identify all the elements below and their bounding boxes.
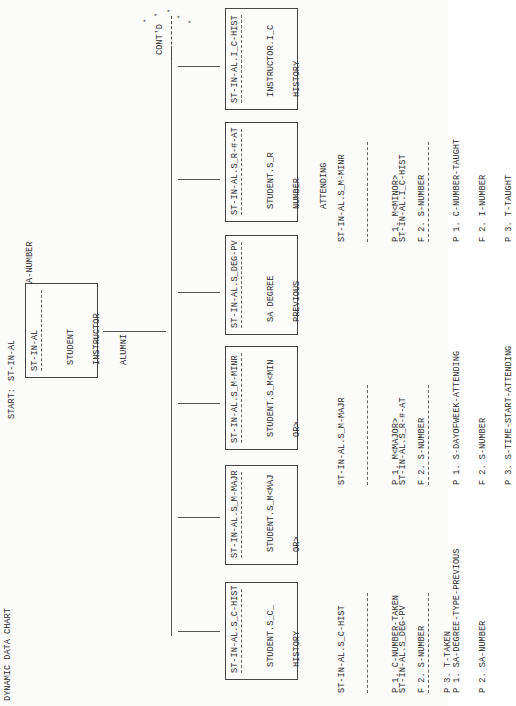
root-entity-subtypes: STUDENT INSTRUCTOR ALUMNI xyxy=(50,313,146,365)
entity-box-line: INSTRUCTOR.I_C xyxy=(267,25,276,97)
branch-stub-deg-pv xyxy=(178,292,220,293)
entity-box-line: OR> xyxy=(293,360,302,437)
entity-box-s-m-majr: ST-IN-AL.S_M-MAJR STUDENT.S_M<MAJ OR> xyxy=(225,465,298,565)
key-list-divider xyxy=(428,385,429,485)
entity-box-divider xyxy=(241,129,242,215)
entity-box-title: ST-IN-AL.S_M-MAJR xyxy=(231,470,240,558)
continuation-star-icon: * xyxy=(142,19,151,23)
key-list-item: F 2. I-NUMBER xyxy=(479,142,488,242)
main-trunk-line xyxy=(171,46,172,636)
key-list-item: P 3. S-TIME-START-ATTENDING xyxy=(505,385,514,485)
continuation-star-icon: * xyxy=(187,20,196,24)
root-connector-line xyxy=(103,331,166,332)
entity-box-description: SA DEGREE PREVIOUS xyxy=(250,276,320,322)
entity-box-line: NUMBER xyxy=(293,152,302,209)
subtype-student: STUDENT xyxy=(67,313,76,365)
continuation-star-icon: * xyxy=(153,13,162,17)
entity-box-s-r-num-at: ST-IN-AL.S_R-#-AT STUDENT.S_R NUMBER ATT… xyxy=(225,122,298,222)
entity-box-line: PREVIOUS xyxy=(293,276,302,322)
continuation-dashed-line xyxy=(171,16,172,60)
subtype-alumni: ALUMNI xyxy=(120,313,129,365)
branch-stub-i-c-hist xyxy=(178,66,220,67)
subtype-instructor: INSTRUCTOR xyxy=(93,313,102,365)
entity-box-divider xyxy=(241,353,242,443)
entity-box-line: STUDENT.S_M<MIN xyxy=(267,360,276,437)
key-list-s-deg-pv: ST-IN-AL.S_DEG-PV P 1. SA-DEGREE-TYPE-PR… xyxy=(382,593,505,693)
key-list-divider xyxy=(367,142,368,242)
branch-stub-r-num-at xyxy=(178,179,220,180)
key-list-item: P 3. T-TAUGHT xyxy=(505,142,514,242)
entity-box-line: STUDENT.S_C_ xyxy=(267,605,276,667)
key-list-title: ST-IN-AL.S_R-#-AT xyxy=(399,385,409,485)
entity-box-description: STUDENT.S_M<MIN OR> xyxy=(250,360,320,437)
continuation-star-icon: * xyxy=(166,9,175,13)
entity-box-title: ST-IN-AL.I_C-HIST xyxy=(231,15,240,103)
continuation-star-icon: * xyxy=(176,15,185,19)
key-list-title: ST-IN-AL.S_C-HIST xyxy=(338,593,348,693)
key-list-title: ST-IN-AL.S_M-MAJR xyxy=(338,385,348,485)
branch-stub-c-hist xyxy=(178,631,220,632)
entity-box-divider xyxy=(241,242,242,328)
entity-box-line: STUDENT.S_R xyxy=(267,152,276,209)
key-list-i-c-hist: ST-IN-AL.I_C-HIST P 1. C-NUMBER-TAUGHT F… xyxy=(382,142,516,242)
entity-box-description: INSTRUCTOR.I_C HISTORY xyxy=(250,25,320,97)
key-list-title: ST-IN-AL.S_DEG-PV xyxy=(399,593,409,693)
key-list-item: P 1. S-DAYOFWEEK-ATTENDING xyxy=(453,385,462,485)
entity-box-line: OR> xyxy=(293,475,302,552)
entity-box-title: ST-IN-AL.S_R-#-AT xyxy=(231,127,240,215)
entity-box-description: STUDENT.S_C_ HISTORY xyxy=(250,605,320,667)
entity-box-i-c-hist: ST-IN-AL.I_C-HIST INSTRUCTOR.I_C HISTORY xyxy=(225,8,298,110)
key-list-divider xyxy=(367,385,368,485)
key-list-item: F 2. S-NUMBER xyxy=(479,385,488,485)
root-entity-divider xyxy=(41,290,42,371)
key-list-item: P 2. SA-NUMBER xyxy=(479,593,488,693)
continuation-label: CONT'D xyxy=(156,24,165,55)
branch-stub-m-majr xyxy=(178,517,220,518)
key-list-title: ST-IN-AL.S_M-MINR xyxy=(338,142,348,242)
entity-box-divider xyxy=(241,15,242,103)
root-entity-title: ST-IN-AL xyxy=(31,330,40,371)
key-list-item: P 1. SA-DEGREE-TYPE-PREVIOUS xyxy=(453,593,462,693)
entity-box-title: ST-IN-AL.S_M-MINR xyxy=(231,355,240,443)
entity-box-description: STUDENT.S_M<MAJ OR> xyxy=(250,475,320,552)
key-list-item: P 1. C-NUMBER-TAUGHT xyxy=(453,142,462,242)
key-list-divider xyxy=(428,142,429,242)
key-list-divider xyxy=(428,593,429,693)
root-entity-box: ST-IN-AL STUDENT INSTRUCTOR ALUMNI xyxy=(25,283,98,378)
key-list-divider xyxy=(367,593,368,693)
start-label: START: xyxy=(8,388,17,419)
entity-box-line: HISTORY xyxy=(293,605,302,667)
key-list-title: ST-IN-AL.I_C-HIST xyxy=(399,142,409,242)
entity-box-line: STUDENT.S_M<MAJ xyxy=(267,475,276,552)
entity-box-line: SA DEGREE xyxy=(267,276,276,322)
start-value: ST-IN-AL xyxy=(8,340,17,381)
entity-box-line: HISTORY xyxy=(293,25,302,97)
entity-box-title: ST-IN-AL.S_C-HIST xyxy=(231,585,240,673)
entity-box-divider xyxy=(241,589,242,673)
key-list-s-r-num-at: ST-IN-AL.S_R-#-AT P 1. S-DAYOFWEEK-ATTEN… xyxy=(382,385,516,485)
entity-box-title: ST-IN-AL.S_DEG-PV xyxy=(231,240,240,328)
entity-box-s-deg-pv: ST-IN-AL.S_DEG-PV SA DEGREE PREVIOUS xyxy=(225,235,298,335)
entity-box-s-m-minr: ST-IN-AL.S_M-MINR STUDENT.S_M<MIN OR> xyxy=(225,346,298,450)
branch-stub-m-minr xyxy=(178,403,220,404)
chart-title: DYNAMIC DATA CHART xyxy=(4,608,13,701)
entity-box-divider xyxy=(241,472,242,558)
entity-box-s-c-hist: ST-IN-AL.S_C-HIST STUDENT.S_C_ HISTORY xyxy=(225,582,298,680)
